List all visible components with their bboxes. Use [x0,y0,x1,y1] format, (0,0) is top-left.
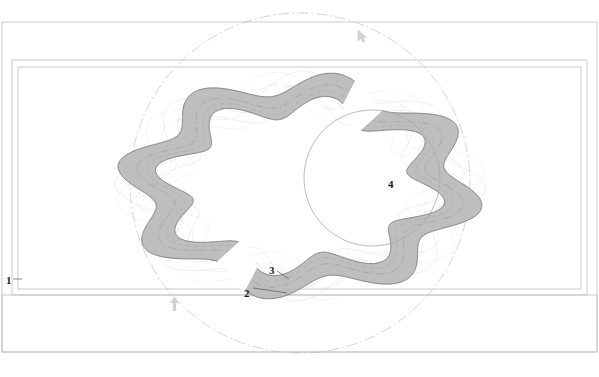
reference-label-2: 2 [244,288,250,299]
reference-label-3: 3 [269,265,275,276]
drawing-canvas: 1 2 3 4 [0,0,599,377]
reference-label-1: 1 [6,275,12,286]
marker-layer [0,0,599,377]
reference-label-4: 4 [388,179,394,190]
